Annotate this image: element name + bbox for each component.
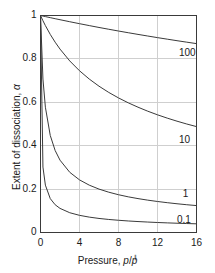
gridlines [41,16,197,233]
y-axis-alpha-symbol: α [11,84,22,90]
x-axis-p-denominator: p [132,255,138,266]
x-tick-label-8: 8 [104,238,134,248]
x-tick-label-12: 12 [143,238,173,248]
y-tick-label-0-2: 0.2 [23,184,37,194]
x-tick-label-16: 16 [182,238,212,248]
x-axis-title: Pressure, p/p⃦ [0,254,215,266]
x-axis-title-text: Pressure, [78,255,124,266]
x-tick-label-0: 0 [26,238,56,248]
y-tick-label-0-4: 0.4 [23,140,37,150]
curve-label-10: 10 [179,135,190,145]
curve-label-0-1: 0.1 [177,215,191,225]
y-tick-label-1: 1 [31,10,37,20]
curve-label-100: 100 [179,48,196,58]
y-axis-title-text: Extent of dissociation, [11,90,22,190]
y-tick-label-0: 0 [31,227,37,237]
y-tick-label-0-6: 0.6 [23,97,37,107]
y-axis-title: Extent of dissociation, α [11,84,22,190]
chart-figure: 00.20.40.60.81 0481216 1001010.1 Extent … [0,0,215,273]
y-tick-label-0-8: 0.8 [23,53,37,63]
curve-label-1: 1 [183,189,189,199]
x-tick-label-4: 4 [65,238,95,248]
